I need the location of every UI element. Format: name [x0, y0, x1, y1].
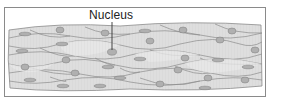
- nucleus-icon: [242, 65, 254, 69]
- smooth-muscle-tissue: [0, 0, 284, 103]
- nucleus-icon: [241, 77, 249, 83]
- nucleus-icon: [212, 58, 224, 62]
- nucleus-icon: [71, 70, 79, 76]
- nucleus-icon: [204, 75, 212, 81]
- nucleus-icon: [181, 55, 189, 61]
- nucleus-icon: [57, 84, 69, 88]
- nucleus-icon: [16, 49, 28, 53]
- nucleus-icon: [21, 64, 29, 70]
- nucleus-icon: [134, 57, 146, 61]
- nucleus-icon: [228, 28, 236, 34]
- nucleus-icon: [139, 29, 151, 33]
- nucleus-icon: [62, 57, 70, 63]
- nucleus-icon: [179, 27, 187, 33]
- nucleus-icon: [251, 47, 259, 53]
- nucleus-icon: [56, 27, 64, 33]
- nucleus-icon: [56, 42, 68, 46]
- nucleus-icon: [94, 84, 106, 88]
- nucleus-icon: [174, 67, 182, 73]
- nucleus-icon: [24, 78, 36, 82]
- nucleus-icon: [101, 30, 109, 36]
- nucleus-icon: [199, 86, 211, 90]
- nucleus-icon: [146, 38, 154, 44]
- nucleus-icon: [114, 76, 126, 80]
- nucleus-icon: [19, 32, 31, 36]
- nucleus-icon: [216, 37, 224, 43]
- nucleus-label: Nucleus: [89, 8, 133, 22]
- nucleus-icon: [102, 65, 114, 69]
- nucleus-icon: [156, 81, 164, 87]
